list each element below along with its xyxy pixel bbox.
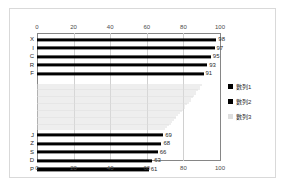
category-label: F: [30, 71, 34, 77]
bar: Z68: [37, 142, 161, 145]
bar: R93: [37, 64, 207, 67]
bar-value-label: 68: [163, 141, 170, 147]
bar-value-label: 98: [218, 37, 225, 43]
category-label: J: [31, 132, 34, 138]
category-label: C: [30, 54, 34, 60]
legend-item[interactable]: 數列2: [228, 94, 284, 109]
x-axis-bottom: 020406080100: [37, 163, 220, 173]
x-axis-bottom-tick: 40: [107, 163, 114, 173]
category-label: D: [30, 158, 34, 164]
bar-value-label: 97: [217, 45, 224, 51]
category-label: I: [32, 45, 34, 51]
gridline: [220, 33, 221, 161]
category-label: Z: [30, 141, 34, 147]
category-label: P: [30, 166, 34, 172]
x-axis-bottom-tick: 20: [70, 163, 77, 173]
legend-label: 數列2: [236, 99, 251, 105]
bar-value-label: 91: [206, 71, 213, 77]
category-label: R: [30, 62, 34, 68]
bar: F91: [37, 72, 204, 75]
bar: [37, 128, 165, 129]
x-axis-top-tick: 20: [70, 22, 77, 32]
x-axis-bottom-tick: 80: [180, 163, 187, 173]
bar-value-label: 69: [165, 132, 172, 138]
bar-value-label: 93: [209, 62, 216, 68]
x-axis-top-tick: 100: [215, 22, 225, 32]
legend-swatch-icon: [228, 84, 233, 89]
x-axis-top-tick: 0: [35, 22, 38, 32]
category-label: X: [30, 37, 34, 43]
legend-label: 數列3: [236, 114, 251, 120]
bar: C95: [37, 55, 211, 58]
bar-value-label: 66: [160, 149, 167, 155]
x-axis-top-tick: 60: [143, 22, 150, 32]
legend-item[interactable]: 數列1: [228, 79, 284, 94]
legend-item[interactable]: 數列3: [228, 109, 284, 124]
bar: D63: [37, 159, 152, 162]
x-axis-top-tick: 40: [107, 22, 114, 32]
bar: I97: [37, 47, 215, 50]
x-axis-bottom-tick: 0: [35, 163, 38, 173]
bar-value-label: 95: [213, 54, 220, 60]
legend-swatch-icon: [228, 114, 233, 119]
x-axis-top-tick: 80: [180, 22, 187, 32]
bar: S66: [37, 151, 158, 154]
x-axis-bottom-tick: 100: [215, 163, 225, 173]
bar: J69: [37, 133, 163, 136]
chart-frame: 020406080100 X98I97C95R93F91J69Z68S66D63…: [9, 8, 276, 178]
bar: X98: [37, 38, 216, 41]
chart-legend: 數列1數列2數列3: [228, 79, 284, 124]
category-label: S: [30, 149, 34, 155]
x-axis-top: 020406080100: [37, 22, 220, 32]
x-axis-bottom-tick: 60: [143, 163, 150, 173]
legend-label: 數列1: [236, 84, 251, 90]
legend-swatch-icon: [228, 99, 233, 104]
plot-area: X98I97C95R93F91J69Z68S66D63P61: [37, 33, 220, 161]
